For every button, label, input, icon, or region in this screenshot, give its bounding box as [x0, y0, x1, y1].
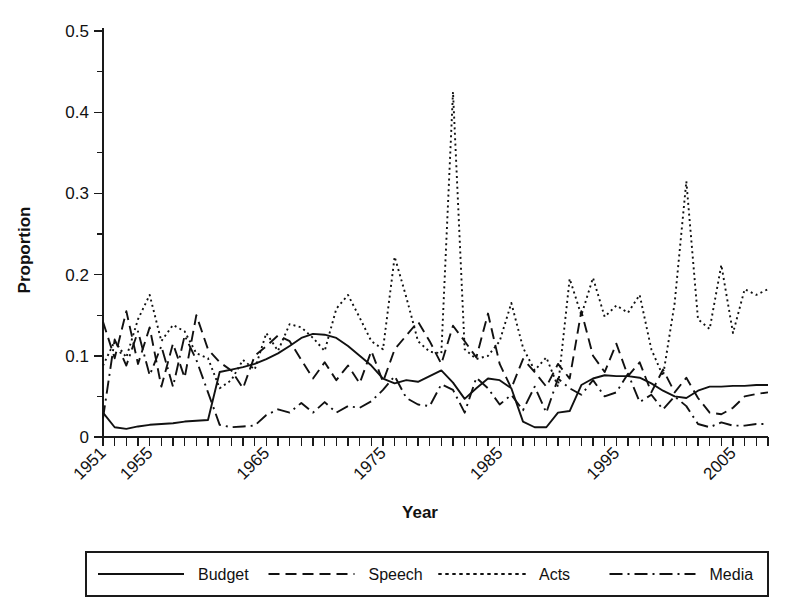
chart-legend: BudgetSpeechActsMedia: [86, 552, 768, 596]
y-tick-label: 0.1: [65, 347, 89, 366]
y-tick-label: 0.3: [65, 184, 89, 203]
x-tick-label: 1985: [466, 443, 506, 483]
y-tick-label: 0.4: [65, 103, 89, 122]
y-axis-title: Proportion: [15, 207, 34, 294]
y-axis: 00.10.20.30.40.5: [65, 22, 103, 447]
y-tick-label: 0.2: [65, 266, 89, 285]
x-tick-label: 1955: [116, 443, 156, 483]
y-tick-label: 0: [80, 428, 89, 447]
x-tick-label: 1995: [583, 443, 623, 483]
x-axis-title: Year: [402, 503, 438, 522]
x-axis: 1951195519651975198519952005: [70, 437, 768, 484]
legend-label-speech: Speech: [369, 566, 423, 583]
y-tick-label: 0.5: [65, 22, 89, 41]
series-line-acts: [103, 92, 768, 388]
proportion-by-year-line-chart: 00.10.20.30.40.5 19511955196519751985199…: [0, 0, 799, 611]
x-tick-label: 1975: [350, 443, 390, 483]
x-tick-label: 2005: [700, 443, 740, 483]
series-line-speech: [103, 311, 768, 414]
x-tick-label: 1965: [233, 443, 273, 483]
data-series-group: [103, 92, 768, 429]
legend-label-media: Media: [710, 566, 754, 583]
chart-figure: 00.10.20.30.40.5 19511955196519751985199…: [0, 0, 799, 611]
legend-label-budget: Budget: [198, 566, 249, 583]
x-tick-label: 1951: [70, 443, 110, 483]
legend-label-acts: Acts: [539, 566, 570, 583]
